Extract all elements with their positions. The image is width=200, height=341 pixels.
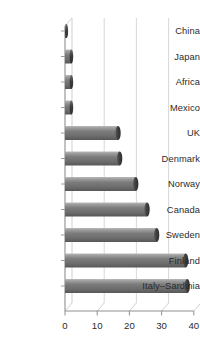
bars-group (65, 24, 190, 293)
bar-uk (65, 126, 121, 140)
chart-canvas (0, 0, 200, 341)
bar-china (65, 24, 68, 38)
bar-canada (65, 203, 150, 217)
bar-africa (65, 75, 73, 89)
bar-japan (65, 50, 73, 64)
bar-norway (65, 177, 138, 191)
bar-denmark (65, 152, 122, 166)
bar-finland (65, 254, 188, 268)
x-axis-ticks (65, 311, 194, 316)
bar-sweden (65, 228, 159, 242)
plot-area: China Japan Africa Mexico UK Denmark Nor… (0, 0, 200, 341)
y-axis-ticks (61, 31, 65, 286)
depth-connectors (65, 303, 200, 311)
bar-mexico (65, 101, 73, 115)
bar-italy-sardinia (65, 279, 190, 293)
bar-chart: China Japan Africa Mexico UK Denmark Nor… (0, 0, 200, 341)
